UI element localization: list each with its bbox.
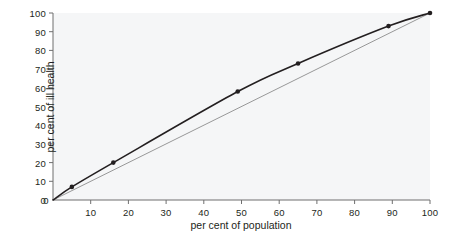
x-axis-tick-label: 90 [387,207,398,218]
x-axis-tick-label: 20 [123,207,134,218]
x-axis-tick-label: 60 [274,207,285,218]
chart-canvas [0,0,456,238]
x-axis-tick-label: 40 [198,207,209,218]
data-point-marker [296,61,301,66]
data-point-marker [70,185,75,190]
data-point-marker [111,160,116,165]
x-axis-tick-label: 30 [161,207,172,218]
y-axis-tick-label: 80 [35,45,46,56]
x-axis-title: per cent of population [191,219,292,231]
x-axis-ticks [91,200,430,204]
x-axis-tick-label: 100 [422,207,438,218]
data-point-marker [386,24,391,29]
y-axis-tick-label: 90 [35,26,46,37]
y-axis-tick-label: 100 [30,8,46,19]
data-point-marker [235,89,240,94]
y-axis-tick-label: 20 [35,157,46,168]
x-axis-tick-label: 70 [311,207,322,218]
x-axis-tick-label: 80 [349,207,360,218]
x-axis-tick-label: 50 [236,207,247,218]
x-axis-tick-label: 0 [43,195,48,206]
y-axis-title: per cent of ill health [44,61,56,152]
x-axis-tick-label: 10 [85,207,96,218]
data-point-marker [428,11,433,16]
chart-figure: 0102030405060708090100 01020304050607080… [0,0,456,238]
y-axis-tick-label: 10 [35,176,46,187]
